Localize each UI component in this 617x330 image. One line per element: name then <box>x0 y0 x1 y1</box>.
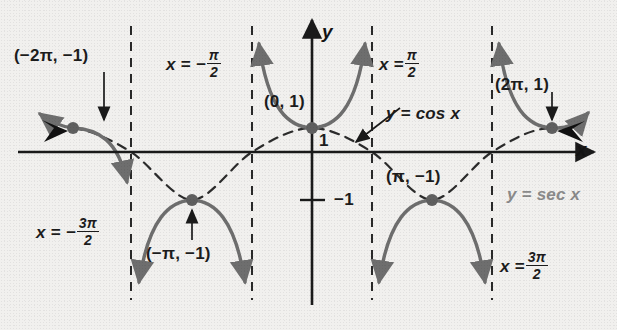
asymptote-lhs: x = <box>500 257 525 276</box>
asymptote-label-pi-over-2: x =π2 <box>379 48 420 80</box>
asymptote-sign: − <box>196 55 206 74</box>
asymptote-fraction: 3π2 <box>77 216 99 248</box>
x-axis-label: x <box>576 140 587 159</box>
point-label-pi: (π, −1) <box>386 168 441 185</box>
asymptote-lhs: x = <box>36 223 61 242</box>
asymptote-label-3pi-over-2: x =3π2 <box>500 250 549 282</box>
secant-branch-neg-pi-right <box>192 200 245 282</box>
dot-pi <box>426 194 438 206</box>
asymptote-fraction: 3π2 <box>526 250 548 282</box>
asymptote-lhs: x = <box>166 55 191 74</box>
tick-label-negative-one: −1 <box>334 191 354 208</box>
tick-label-one: 1 <box>319 132 329 149</box>
asymptote-fraction: π2 <box>405 48 419 80</box>
asymptote-lhs: x = <box>379 55 404 74</box>
point-label-neg-2pi: (−2π, −1) <box>14 47 88 64</box>
y-axis-label: y <box>322 22 333 41</box>
secant-cosine-graph-figure: (−2π, −1) (−π, −1) (0, 1) (π, −1) (2π, 1… <box>0 0 617 330</box>
asymptote-label-neg-pi-over-2: x = −π2 <box>166 48 222 80</box>
secant-branch-neg-pi <box>139 200 192 282</box>
secant-branch-origin-left <box>259 44 312 128</box>
dot-2pi <box>546 122 558 134</box>
secant-branch-neg-2pi <box>73 128 127 182</box>
secant-branch-pi-left <box>379 200 432 282</box>
dot-origin <box>306 122 318 134</box>
asymptote-sign: − <box>66 223 76 242</box>
asymptote-label-neg-3pi-over-2: x = −3π2 <box>36 216 100 248</box>
point-label-2pi: (2π, 1) <box>495 76 549 93</box>
secant-branch-pi-right <box>432 200 485 282</box>
secant-curve-label: y = sec x <box>507 186 580 203</box>
asymptote-fraction: π2 <box>207 48 221 80</box>
dot-neg-pi <box>186 194 198 206</box>
dot-neg-2pi <box>67 122 79 134</box>
point-label-origin: (0, 1) <box>264 93 305 110</box>
point-label-neg-pi: (−π, −1) <box>146 245 211 262</box>
secant-branch-origin-right <box>312 44 365 128</box>
cosine-curve-label: y = cos x <box>386 105 460 122</box>
